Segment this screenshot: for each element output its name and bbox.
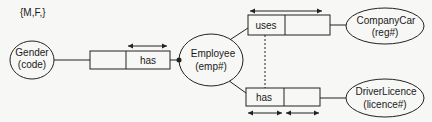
companycar-ref: (reg#): [372, 27, 399, 38]
driverlicence-ref: (licence#): [363, 99, 406, 110]
fact-employee-has-licence[interactable]: has: [246, 88, 320, 113]
fact-employee-uses-car[interactable]: uses: [248, 11, 330, 35]
driverlicence-ellipse: [346, 79, 424, 117]
employee-ref: (emp#): [195, 61, 227, 72]
gender-name: Gender: [15, 47, 49, 58]
employee-ellipse: [179, 34, 243, 86]
driverlicence-name: DriverLicence: [355, 86, 417, 97]
fact-employee-has-gender[interactable]: has: [90, 46, 170, 69]
fact-label: uses: [255, 20, 276, 31]
mandatory-dot: [177, 58, 182, 63]
fact-label: has: [256, 92, 272, 103]
fact-label: has: [140, 55, 156, 66]
employee-name: Employee: [191, 48, 236, 59]
fact-box: [90, 51, 170, 69]
entity-driverlicence[interactable]: DriverLicence (licence#): [346, 79, 424, 117]
gender-constraint-label: {M,F,}: [20, 7, 46, 18]
entity-employee[interactable]: Employee (emp#): [177, 34, 244, 86]
entity-gender[interactable]: {M,F,} Gender (code): [10, 7, 54, 79]
companycar-name: CompanyCar: [357, 15, 417, 26]
companycar-ellipse: [346, 8, 424, 44]
entity-companycar[interactable]: CompanyCar (reg#): [346, 8, 424, 44]
orm-diagram: {M,F,} Gender (code) has Employee (emp#)…: [0, 0, 432, 122]
gender-ref: (code): [18, 59, 46, 70]
